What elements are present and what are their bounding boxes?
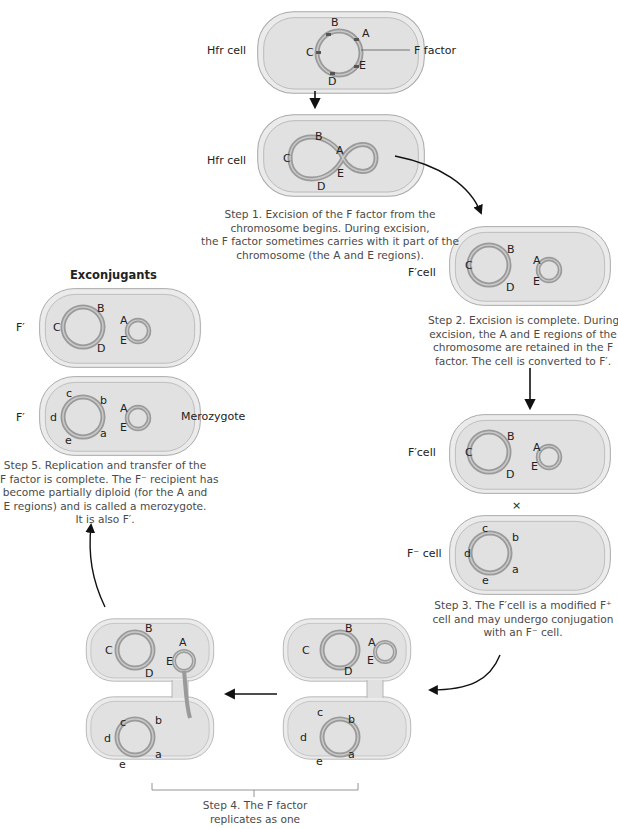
gene-b: b bbox=[348, 713, 355, 726]
gene-e: e bbox=[65, 434, 72, 447]
gene-E: E bbox=[120, 421, 127, 434]
fminus-cell: c b d a e bbox=[450, 516, 611, 595]
gene-E: E bbox=[337, 167, 344, 180]
label-hfr-cell: Hfr cell bbox=[207, 44, 246, 57]
gene-C: C bbox=[465, 446, 473, 459]
gene-A: A bbox=[179, 636, 187, 649]
gene-e: e bbox=[119, 758, 126, 771]
gene-c: c bbox=[317, 706, 323, 719]
gene-E: E bbox=[531, 460, 538, 473]
exconjugants-title: Exconjugants bbox=[70, 268, 157, 282]
gene-E: E bbox=[533, 275, 540, 288]
cross-symbol: × bbox=[512, 499, 521, 512]
fprime-cell-step3: B C D A E bbox=[450, 415, 611, 494]
gene-c: c bbox=[482, 522, 488, 535]
arrow-step3-to-step4 bbox=[430, 655, 500, 690]
label-fprime-cell: F′cell bbox=[408, 266, 436, 279]
gene-b: b bbox=[155, 714, 162, 727]
f-prime-formation-diagram: B A C E D Hfr cell F factor B A C E D Hf… bbox=[0, 0, 618, 829]
gene-e: e bbox=[482, 574, 489, 587]
gene-a: a bbox=[155, 748, 162, 761]
gene-A: A bbox=[368, 636, 376, 649]
gene-c: c bbox=[120, 716, 126, 729]
gene-A: A bbox=[336, 144, 344, 157]
gene-E: E bbox=[120, 334, 127, 347]
gene-C: C bbox=[283, 152, 291, 165]
exconjugant-donor: B C D A E bbox=[40, 289, 201, 368]
hfr-cell-excision: B A C E D bbox=[258, 115, 425, 197]
hfr-cell-integrated: B A C E D bbox=[258, 12, 425, 94]
gene-C: C bbox=[53, 321, 61, 334]
gene-E: E bbox=[166, 655, 173, 668]
gene-B: B bbox=[507, 430, 515, 443]
exconjugant-merozygote: c b d a e A E bbox=[40, 377, 201, 456]
gene-d: d bbox=[50, 411, 57, 424]
gene-C: C bbox=[302, 644, 310, 657]
gene-D: D bbox=[506, 281, 514, 294]
gene-C: C bbox=[306, 46, 314, 59]
gene-b: b bbox=[512, 531, 519, 544]
gene-A: A bbox=[533, 254, 541, 267]
gene-B: B bbox=[507, 243, 515, 256]
label-fminus-cell: F⁻ cell bbox=[407, 547, 442, 560]
gene-D: D bbox=[317, 180, 325, 193]
gene-e: e bbox=[316, 755, 323, 768]
gene-d: d bbox=[104, 732, 111, 745]
label-fprime-cell-2: F′cell bbox=[408, 446, 436, 459]
step2-caption: Step 2. Excision is complete. Duringexci… bbox=[428, 314, 618, 368]
gene-A: A bbox=[120, 314, 128, 327]
gene-C: C bbox=[105, 644, 113, 657]
label-fprime-merozygote: F′ bbox=[16, 411, 25, 424]
conjugation-pair-right: B C D A E c b d a e bbox=[283, 619, 410, 768]
gene-d: d bbox=[464, 547, 471, 560]
step3-caption: Step 3. The F′cell is a modified F⁺cell … bbox=[428, 599, 618, 640]
gene-B: B bbox=[345, 622, 353, 635]
gene-a: a bbox=[512, 563, 519, 576]
gene-D: D bbox=[506, 468, 514, 481]
gene-B: B bbox=[145, 622, 153, 635]
gene-B: B bbox=[331, 16, 339, 29]
gene-D: D bbox=[145, 667, 153, 680]
gene-A: A bbox=[120, 402, 128, 415]
gene-a: a bbox=[100, 427, 107, 440]
gene-B: B bbox=[97, 302, 105, 315]
step1-caption: Step 1. Excision of the F factor from th… bbox=[180, 208, 480, 262]
step4-bracket bbox=[152, 783, 358, 790]
conjugation-pair-left: B C D A E c b d a e bbox=[86, 619, 213, 771]
gene-D: D bbox=[97, 342, 105, 355]
step5-caption: Step 5. Replication and transfer of theF… bbox=[0, 459, 210, 527]
gene-E: E bbox=[359, 59, 366, 72]
gene-c: c bbox=[66, 387, 72, 400]
gene-B: B bbox=[315, 130, 323, 143]
gene-d: d bbox=[300, 731, 307, 744]
step4-caption: Step 4. The F factorreplicates as one bbox=[180, 799, 330, 826]
arrow-step4-to-step5 bbox=[90, 525, 105, 607]
label-merozygote: Merozygote bbox=[181, 410, 246, 423]
gene-b: b bbox=[100, 394, 107, 407]
gene-A: A bbox=[362, 27, 370, 40]
label-fprime-donor: F′ bbox=[16, 321, 25, 334]
gene-A: A bbox=[533, 441, 541, 454]
gene-D: D bbox=[328, 75, 336, 88]
gene-a: a bbox=[348, 748, 355, 761]
label-hfr-cell-2: Hfr cell bbox=[207, 154, 246, 167]
gene-D: D bbox=[344, 665, 352, 678]
gene-E: E bbox=[367, 654, 374, 667]
label-f-factor: F factor bbox=[414, 44, 457, 57]
